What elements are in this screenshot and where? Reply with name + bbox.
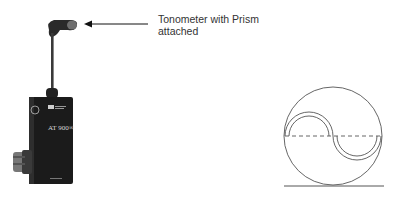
annotation-line-2: attached [158, 25, 278, 37]
annotation-line-1: Tonometer with Prism [158, 13, 278, 25]
pointer-arrow [84, 21, 148, 28]
tonometer-device [13, 20, 77, 184]
mires-diagram [284, 87, 384, 186]
annotation-label: Tonometer with Prism attached [158, 13, 278, 37]
device-model-label: AT 900® [48, 124, 75, 132]
